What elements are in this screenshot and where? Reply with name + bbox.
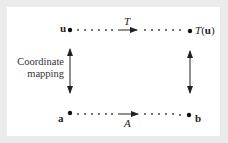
node-a-label: a — [58, 113, 64, 124]
node-b-dot — [187, 113, 191, 117]
node-Tu-label: T(u) — [195, 25, 215, 36]
node-b-label: b — [195, 113, 201, 124]
top-dotted-line — [68, 28, 192, 33]
node-u-label: u — [60, 23, 66, 34]
coordinate-mapping-caption: Coordinate mapping — [10, 56, 64, 80]
node-u-dot — [68, 28, 72, 32]
node-a-dot — [68, 111, 72, 115]
edge-A-label: A — [124, 118, 131, 129]
node-Tu-dot — [188, 29, 192, 33]
edge-T-label: T — [124, 16, 130, 27]
